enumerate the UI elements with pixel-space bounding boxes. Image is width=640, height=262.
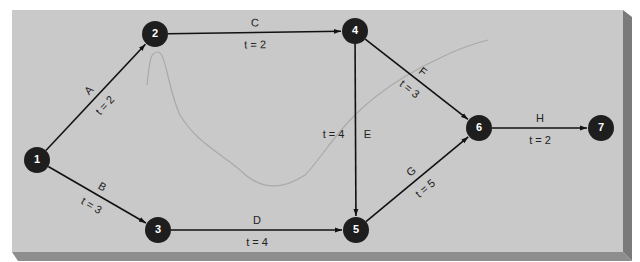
edge-time-label: t = 2 (529, 134, 551, 146)
panel-bevel-bottom (12, 252, 632, 261)
node-4: 4 (342, 18, 368, 44)
node-label: 1 (34, 153, 40, 165)
node-3: 3 (145, 217, 171, 243)
node-label: 2 (152, 27, 158, 39)
edge-activity-label: C (251, 16, 259, 28)
node-6: 6 (466, 115, 492, 141)
panel-face (12, 10, 623, 252)
node-7: 7 (588, 115, 614, 141)
edge-time-label: t = 2 (244, 38, 266, 50)
node-2: 2 (142, 21, 168, 47)
edge-activity-label: E (364, 128, 371, 140)
edge-activity-label: H (536, 112, 544, 124)
node-label: 6 (476, 121, 482, 133)
edge-E (355, 44, 356, 216)
node-label: 5 (353, 223, 359, 235)
project-network-diagram: At = 2Bt = 3Ct = 2Dt = 4Et = 4Ft = 3Gt =… (0, 0, 640, 262)
node-1: 1 (24, 147, 50, 173)
edge-activity-label: D (253, 214, 261, 226)
edge-time-label: t = 4 (323, 128, 345, 140)
node-5: 5 (343, 217, 369, 243)
node-label: 3 (155, 223, 161, 235)
node-label: 7 (598, 121, 604, 133)
panel-bevel-right (623, 10, 632, 261)
edge-time-label: t = 4 (246, 236, 268, 248)
node-label: 4 (352, 24, 359, 36)
